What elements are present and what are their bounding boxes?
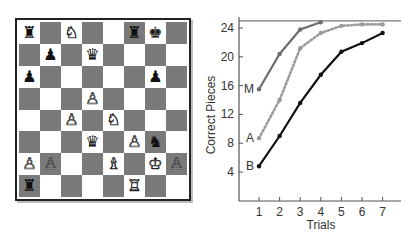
chart-axes: 48121620241234567 <box>221 17 401 219</box>
series-b-point <box>339 50 343 54</box>
series-m-point <box>277 52 281 56</box>
series-b-label: B <box>246 159 254 173</box>
chart-labels: Trials Correct Pieces <box>204 76 335 232</box>
series-b-point <box>360 41 364 45</box>
series-b-point <box>319 73 323 77</box>
series-a-point <box>277 98 281 102</box>
chart-series: MAB <box>244 20 385 173</box>
y-tick-label: 20 <box>221 50 235 64</box>
x-tick-label: 4 <box>317 205 324 219</box>
y-tick-label: 8 <box>227 136 234 150</box>
y-tick-label: 24 <box>221 21 235 35</box>
x-tick-label: 5 <box>338 205 345 219</box>
x-axis-label: Trials <box>307 218 336 232</box>
y-tick-label: 12 <box>221 107 235 121</box>
series-m-point <box>298 27 302 31</box>
series-m-point <box>257 87 261 91</box>
series-a-point <box>319 31 323 35</box>
series-a-point <box>380 22 384 26</box>
y-tick-label: 16 <box>221 79 235 93</box>
learning-curve-chart: 48121620241234567 MAB Trials Correct Pie… <box>0 0 414 242</box>
x-tick-label: 6 <box>359 205 366 219</box>
series-b-point <box>277 134 281 138</box>
series-a-label: A <box>246 131 254 145</box>
series-a-point <box>339 24 343 28</box>
series-b-point <box>298 101 302 105</box>
x-tick-label: 3 <box>297 205 304 219</box>
y-axis-label: Correct Pieces <box>204 76 218 155</box>
y-tick-label: 4 <box>227 165 234 179</box>
series-a-point <box>360 22 364 26</box>
series-b-point <box>257 164 261 168</box>
series-m-label: M <box>244 82 254 96</box>
series-b-point <box>380 31 384 35</box>
series-m-point <box>319 20 323 24</box>
series-m-line <box>259 22 321 89</box>
series-a-point <box>257 136 261 140</box>
series-a-point <box>298 46 302 50</box>
x-tick-label: 7 <box>379 205 386 219</box>
x-tick-label: 1 <box>256 205 263 219</box>
x-tick-label: 2 <box>276 205 283 219</box>
